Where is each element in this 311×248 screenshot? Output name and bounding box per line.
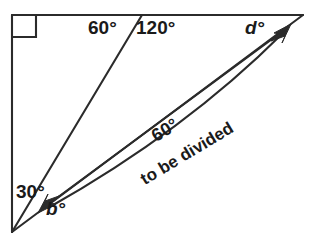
angle-label-120-top: 120° bbox=[136, 18, 175, 37]
arrowhead-upper-right-icon bbox=[271, 24, 291, 43]
geometry-diagram: 60° 120° d° 30° b° 60° to be divided bbox=[0, 0, 311, 248]
angle-label-60-top: 60° bbox=[88, 18, 117, 37]
angle-label-30: 30° bbox=[16, 182, 45, 201]
right-angle-square-icon bbox=[12, 15, 36, 37]
angle-label-b: b° bbox=[46, 199, 65, 218]
angle-label-d: d° bbox=[245, 18, 264, 37]
